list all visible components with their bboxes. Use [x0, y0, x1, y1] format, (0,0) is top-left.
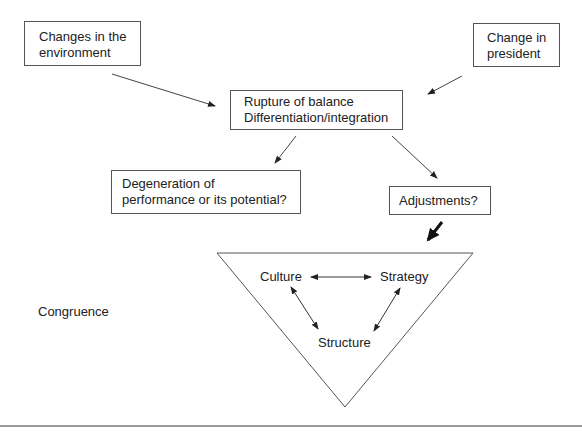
- box-change-in-president: Change in president: [473, 23, 560, 67]
- box-env-line1: Changes in the: [39, 29, 140, 45]
- arrow-rupture-to-degeneration: [275, 136, 296, 163]
- box-rupture-line2: Differentiation/integration: [244, 110, 402, 126]
- box-degeneration-line2: performance or its potential?: [122, 192, 300, 208]
- arrow-env-to-rupture: [112, 74, 215, 106]
- arrow-culture-structure: [291, 287, 318, 329]
- label-strategy: Strategy: [380, 269, 428, 285]
- box-rupture-line1: Rupture of balance: [244, 94, 402, 110]
- label-structure: Structure: [318, 335, 371, 351]
- congruence-triangle: [217, 253, 473, 407]
- label-culture: Culture: [260, 269, 302, 285]
- bold-arrow-adjustments-to-triangle: [428, 222, 442, 240]
- box-changes-in-environment: Changes in the environment: [24, 21, 141, 66]
- label-congruence: Congruence: [38, 304, 109, 320]
- box-degeneration: Degeneration of performance or its poten…: [111, 170, 301, 214]
- box-president-line2: president: [487, 46, 559, 62]
- box-env-line2: environment: [39, 45, 140, 61]
- box-rupture-of-balance: Rupture of balance Differentiation/integ…: [230, 90, 403, 130]
- box-degeneration-line1: Degeneration of: [122, 176, 300, 192]
- box-adjustments: Adjustments?: [389, 186, 491, 215]
- arrow-strategy-structure: [374, 288, 400, 331]
- arrow-president-to-rupture: [428, 76, 462, 94]
- box-president-line1: Change in: [487, 30, 559, 46]
- arrow-rupture-to-adjustments: [392, 136, 437, 178]
- box-adjustments-line1: Adjustments?: [399, 193, 490, 209]
